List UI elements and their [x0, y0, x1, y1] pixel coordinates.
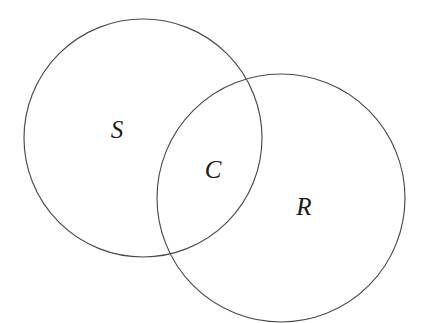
set-label-s: S	[111, 117, 124, 142]
set-label-c: C	[205, 157, 222, 182]
set-circle-left	[24, 19, 262, 257]
set-label-r: R	[296, 194, 311, 219]
venn-diagram-canvas: S C R	[0, 0, 423, 323]
set-circle-right	[157, 74, 405, 322]
